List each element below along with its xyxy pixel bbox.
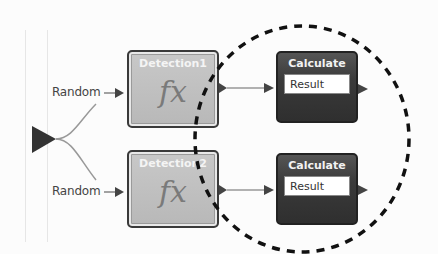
highlight-layer <box>0 0 438 254</box>
diagram-canvas: Random Random Detection1 fx Detection2 f… <box>0 0 438 254</box>
highlight-dashed-circle <box>195 26 409 252</box>
